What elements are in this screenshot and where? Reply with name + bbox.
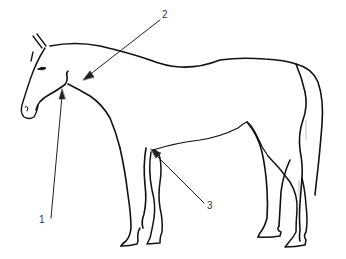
hindquarter bbox=[296, 64, 306, 241]
forelock bbox=[31, 52, 33, 61]
neck-underside bbox=[68, 84, 120, 148]
arrow-1-head bbox=[59, 89, 65, 99]
foreleg-near-front bbox=[120, 148, 131, 246]
head-profile bbox=[21, 48, 45, 119]
label-2: 2 bbox=[162, 10, 168, 20]
label-1: 1 bbox=[39, 215, 45, 225]
arrow-3-shaft bbox=[156, 155, 204, 203]
belly bbox=[153, 122, 247, 150]
eye bbox=[38, 67, 46, 70]
arrow-2-shaft bbox=[88, 20, 160, 76]
foreleg-far bbox=[147, 150, 162, 244]
hindleg-near-front bbox=[247, 122, 268, 237]
label-3: 3 bbox=[207, 201, 213, 211]
foreleg-near-back bbox=[142, 148, 146, 228]
hindleg-far bbox=[268, 156, 307, 247]
topline bbox=[50, 44, 296, 68]
arrow-1-shaft bbox=[51, 96, 62, 218]
nostril bbox=[25, 106, 28, 111]
horse-drawing bbox=[0, 0, 346, 259]
jaw bbox=[36, 71, 68, 110]
horse-diagram: 2 1 3 bbox=[0, 0, 346, 259]
